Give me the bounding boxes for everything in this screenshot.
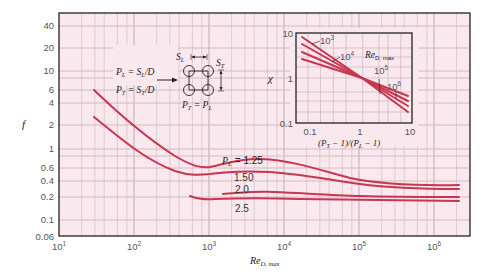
svg-text:40: 40 bbox=[43, 20, 54, 31]
svg-text:1: 1 bbox=[357, 126, 362, 137]
label-pl-2-5: 2.5 bbox=[235, 203, 249, 214]
svg-text:102: 102 bbox=[127, 240, 142, 252]
svg-text:20: 20 bbox=[43, 42, 54, 53]
svg-text:10: 10 bbox=[405, 126, 416, 137]
svg-text:0.1: 0.1 bbox=[303, 126, 316, 137]
svg-text:0.1: 0.1 bbox=[280, 118, 293, 129]
svg-text:10: 10 bbox=[43, 65, 54, 76]
svg-text:104: 104 bbox=[277, 240, 292, 252]
svg-text:4: 4 bbox=[49, 97, 54, 108]
svg-text:0.4: 0.4 bbox=[41, 175, 54, 186]
svg-text:1: 1 bbox=[288, 73, 293, 84]
y-axis-label: f bbox=[22, 118, 27, 130]
svg-text:106: 106 bbox=[427, 240, 442, 252]
chart-canvas: PL = 1.25 1.50 2.0 2.5 40 20 10 6 4 2 1 … bbox=[0, 0, 489, 277]
svg-text:105: 105 bbox=[352, 240, 367, 252]
x-axis-label: ReD, max bbox=[249, 255, 279, 267]
svg-text:6: 6 bbox=[49, 84, 54, 95]
svg-text:10: 10 bbox=[282, 28, 293, 39]
svg-text:0.2: 0.2 bbox=[41, 191, 54, 202]
label-pl-2-0: 2.0 bbox=[235, 184, 249, 195]
svg-text:103: 103 bbox=[202, 240, 217, 252]
eq-pt-pl: PT = PL bbox=[181, 100, 212, 111]
x-axis-ticks: 101 102 103 104 105 106 bbox=[52, 240, 442, 252]
eq-pt: PT = ST/D bbox=[115, 85, 155, 96]
svg-text:0.1: 0.1 bbox=[41, 214, 54, 225]
label-pl-1-50: 1.50 bbox=[234, 172, 254, 183]
eq-pl: PL = SL/D bbox=[115, 67, 155, 78]
svg-text:101: 101 bbox=[52, 240, 67, 252]
svg-text:0.6: 0.6 bbox=[41, 162, 54, 173]
svg-text:2: 2 bbox=[49, 119, 54, 130]
y-axis-ticks: 40 20 10 6 4 2 1 0.6 0.4 0.2 0.1 0.06 bbox=[36, 20, 55, 242]
svg-text:1: 1 bbox=[49, 143, 54, 154]
